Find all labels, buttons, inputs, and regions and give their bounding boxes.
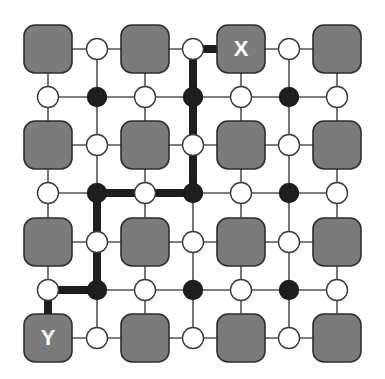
node-white [135, 183, 156, 204]
node-white [279, 135, 300, 156]
node-white [231, 87, 252, 108]
node-white [279, 39, 300, 60]
block [24, 121, 72, 169]
block [313, 218, 361, 266]
node-white [38, 183, 59, 204]
node-white [231, 280, 252, 301]
node-white [87, 39, 108, 60]
node-white [183, 135, 204, 156]
grid-diagram: XY [0, 0, 385, 379]
block [313, 25, 361, 73]
node-white [135, 87, 156, 108]
node-white [327, 280, 348, 301]
node-white [87, 328, 108, 349]
node-black [88, 281, 107, 300]
node-white [327, 87, 348, 108]
node-white [183, 232, 204, 253]
node-white [87, 135, 108, 156]
node-black [280, 184, 299, 203]
block [313, 121, 361, 169]
node-black [184, 184, 203, 203]
block-x [217, 25, 265, 73]
block [24, 218, 72, 266]
node-black [184, 281, 203, 300]
node-white [183, 328, 204, 349]
node-black [280, 281, 299, 300]
node-black [280, 88, 299, 107]
node-white [183, 39, 204, 60]
node-white [135, 280, 156, 301]
block-y [24, 314, 72, 362]
node-white [38, 280, 59, 301]
block [121, 218, 169, 266]
node-white [231, 183, 252, 204]
block [217, 314, 265, 362]
node-white [87, 232, 108, 253]
node-white [38, 87, 59, 108]
node-white [327, 183, 348, 204]
block [121, 121, 169, 169]
block [24, 25, 72, 73]
diagram-canvas [0, 0, 385, 379]
block [121, 314, 169, 362]
node-white [279, 328, 300, 349]
block [313, 314, 361, 362]
node-black [88, 184, 107, 203]
node-black [184, 88, 203, 107]
node-white [279, 232, 300, 253]
block [217, 218, 265, 266]
block [217, 121, 265, 169]
block [121, 25, 169, 73]
node-black [88, 88, 107, 107]
